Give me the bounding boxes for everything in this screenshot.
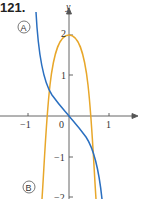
tick-y-neg2: −2 xyxy=(54,192,65,199)
graph: y −1 0 1 2 1 −1 −2 A B xyxy=(0,0,141,199)
label-a-text: A xyxy=(21,23,27,33)
y-axis-label: y xyxy=(65,1,71,12)
tick-y-2: 2 xyxy=(61,28,66,39)
tick-x-neg1: −1 xyxy=(20,119,31,130)
tick-x-0: 0 xyxy=(59,119,64,130)
axes xyxy=(0,8,138,199)
tick-x-1: 1 xyxy=(106,119,111,130)
label-b-text: B xyxy=(26,183,32,193)
tick-y-neg1: −1 xyxy=(54,152,65,163)
tick-y-1: 1 xyxy=(61,70,66,81)
